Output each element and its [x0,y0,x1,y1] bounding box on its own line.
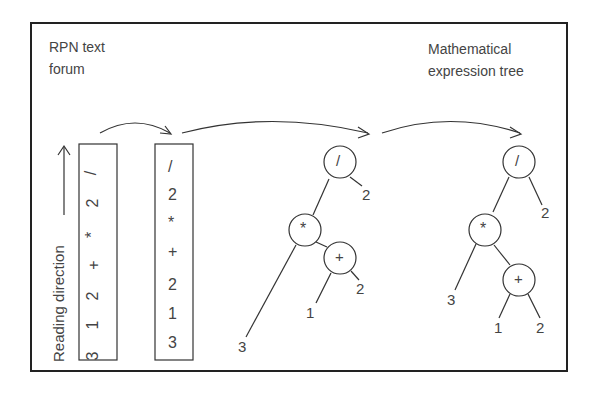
tree2-root-label: / [515,152,519,170]
rpn-vtoken: 2 [84,292,102,301]
tree2-root-right: 2 [541,204,549,222]
rpn-vtoken: + [85,260,103,269]
rpn-vtoken: 3 [84,352,102,361]
arrow-2 [182,122,368,134]
tree2-mul-label: * [480,220,486,238]
rpn-stoken: 1 [168,305,177,323]
tree1-root-label: / [336,152,340,170]
reading-direction-label: Reading direction [50,245,68,362]
arrow-3-head [510,127,521,138]
rpn-vtoken: 2 [84,199,102,208]
rpn-stoken: / [168,158,172,176]
arrow-3 [382,122,520,134]
rpn-stoken: 2 [168,276,177,294]
rpn-stoken: 2 [168,186,177,204]
arrow-1 [100,123,170,133]
tree2-plus-left: 1 [494,319,502,337]
rpn-stoken: 3 [168,334,177,352]
rpn-vtoken: / [82,171,100,175]
tree1-root-right: 2 [362,186,370,204]
rpn-vtoken: 1 [84,321,102,330]
tree1-plus-right: 2 [356,280,364,298]
tree2-plus-right: 2 [536,319,544,337]
tree2-mul-left: 3 [447,291,455,309]
tree1-mul-label: * [300,220,306,238]
tree1-mul-left: 3 [238,338,246,356]
rpn-stoken: * [168,214,174,232]
rpn-vtoken: * [83,232,101,238]
tree1-plus-left: 1 [306,304,314,322]
tree2-plus-label: + [514,270,523,288]
tree1-plus-label: + [335,248,344,266]
rpn-stoken: + [168,243,177,261]
